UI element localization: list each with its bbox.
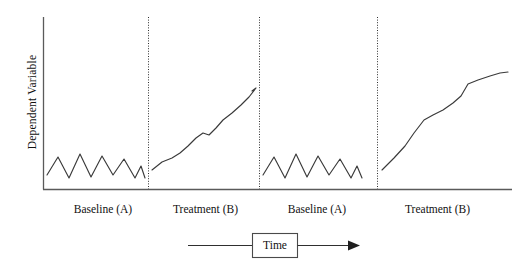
data-series-treatment-1 — [152, 88, 256, 170]
y-axis-label: Dependent Variable — [26, 26, 38, 178]
plot-canvas — [0, 0, 530, 265]
data-series-treatment-2 — [382, 72, 508, 170]
phase-label-treatment-2: Treatment (B) — [390, 203, 485, 215]
phase-label-treatment-1: Treatment (B) — [158, 203, 253, 215]
phase-dividers-group — [149, 17, 378, 189]
phase-label-baseline-1: Baseline (A) — [58, 203, 148, 215]
data-series-baseline-2 — [263, 154, 362, 178]
single-case-design-figure: Dependent Variable Baseline (A) Treatmen… — [0, 0, 530, 265]
time-axis-label: Time — [253, 238, 297, 253]
time-arrow-head-icon — [348, 241, 360, 251]
phase-label-baseline-2: Baseline (A) — [272, 203, 362, 215]
data-series-baseline-1 — [47, 154, 145, 178]
